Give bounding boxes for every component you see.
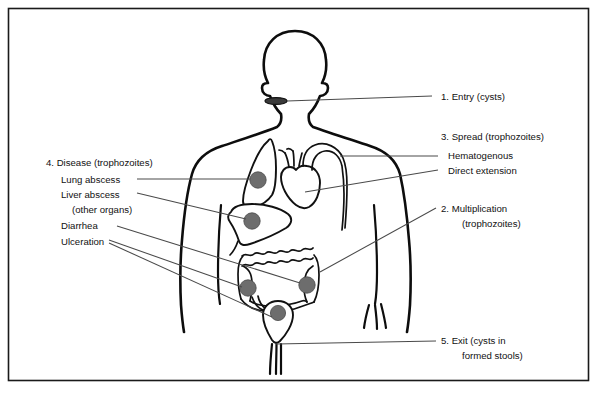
label-entry: 1. Entry (cysts) <box>441 91 505 102</box>
mouth-entry-icon <box>265 98 287 105</box>
label-lung-abscess: Lung abscess <box>61 174 120 185</box>
colon-diarrhea-site <box>299 277 315 293</box>
liver-abscess-site <box>244 213 260 229</box>
amebiasis-pathogenesis-diagram: 1. Entry (cysts) 3. Spread (trophozoites… <box>0 0 598 397</box>
rectum-exit-site <box>270 305 285 320</box>
label-disease-title: 4. Disease (trophozoites) <box>46 157 153 168</box>
leader-ulceration-colon <box>109 240 242 287</box>
lung-abscess-site <box>250 172 266 188</box>
label-other-organs: (other organs) <box>72 204 132 215</box>
label-liver-abscess: Liver abscess <box>61 189 120 200</box>
descending-colon-outer <box>314 255 319 302</box>
leader-exit <box>276 341 436 344</box>
label-multiplication-sub: (trophozoites) <box>462 218 521 229</box>
figure-root: 1. Entry (cysts) 3. Spread (trophozoites… <box>0 0 598 397</box>
heart <box>281 166 320 208</box>
label-exit-title: 5. Exit (cysts in <box>441 335 506 346</box>
great-vessels <box>279 149 302 167</box>
transverse-colon-lower <box>242 258 313 266</box>
label-exit-sub: formed stools) <box>462 350 523 361</box>
liver-lobe-edge <box>230 241 238 255</box>
label-ulceration: Ulceration <box>61 236 104 247</box>
leader-entry <box>287 96 432 101</box>
label-spread-title: 3. Spread (trophozoites) <box>441 131 544 142</box>
label-multiplication-title: 2. Multiplication <box>441 203 507 214</box>
transverse-colon-upper <box>242 248 313 256</box>
label-diarrhea: Diarrhea <box>61 220 98 231</box>
label-spread-direct-extension: Direct extension <box>448 165 517 176</box>
legs <box>270 344 281 374</box>
label-spread-hematogenous: Hematogenous <box>448 150 513 161</box>
colon-ulceration-site <box>240 280 256 296</box>
